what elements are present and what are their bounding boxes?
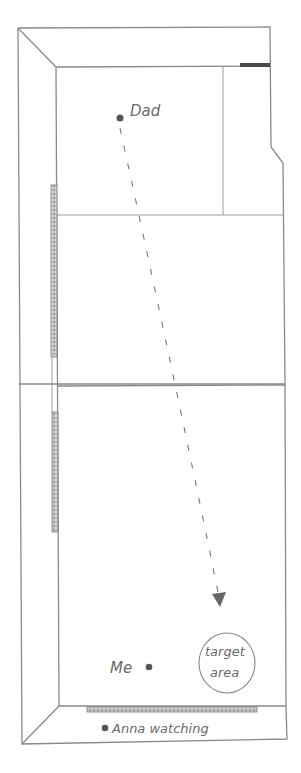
inner-walls bbox=[19, 66, 286, 706]
anna-label: Anna watching bbox=[111, 721, 209, 736]
left-hatch-lower bbox=[52, 412, 58, 532]
target-label-line2: area bbox=[210, 665, 239, 680]
target-area: target area bbox=[199, 633, 255, 693]
dad-marker bbox=[117, 115, 124, 122]
perspective-corners bbox=[18, 28, 59, 744]
dad-label: Dad bbox=[130, 102, 161, 120]
me-label: Me bbox=[110, 659, 132, 677]
arrowhead-icon bbox=[212, 592, 226, 607]
anna-marker bbox=[102, 725, 109, 732]
dark-bar bbox=[240, 63, 270, 67]
floor-plan-diagram: Dad Me target area Anna watching bbox=[0, 0, 301, 773]
target-label-line1: target bbox=[205, 644, 246, 659]
me-marker bbox=[146, 664, 153, 671]
trajectory-arrow bbox=[120, 128, 226, 607]
left-hatch-upper bbox=[51, 185, 57, 357]
bottom-hatch bbox=[87, 707, 257, 712]
